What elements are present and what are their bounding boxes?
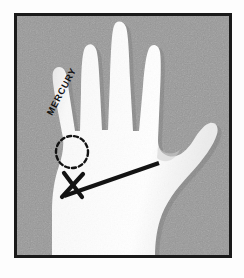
- palm-diagram-canvas: MERCURY: [0, 0, 244, 278]
- palm-diagram-figure: MERCURY: [0, 0, 244, 278]
- plate: MERCURY: [16, 15, 230, 261]
